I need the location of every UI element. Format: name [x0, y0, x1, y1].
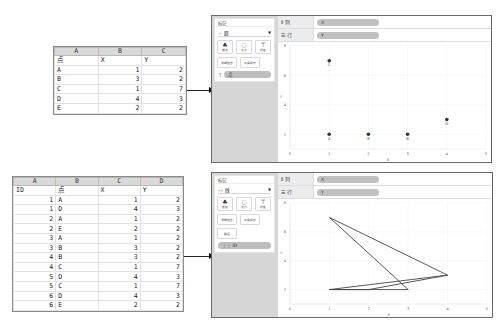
table-cell[interactable]: 2	[98, 224, 140, 234]
table-cell[interactable]: A	[56, 214, 98, 224]
table-cell[interactable]: 5	[14, 281, 56, 291]
table-cell[interactable]: D	[56, 291, 98, 301]
columns-shelf[interactable]: ⦀ 列 X	[278, 16, 491, 29]
table-cell[interactable]: 2	[140, 233, 182, 243]
table-cell[interactable]: 1	[14, 195, 56, 205]
table-cell[interactable]: 3	[140, 272, 182, 282]
table-cell[interactable]: 4	[98, 205, 140, 215]
table-cell[interactable]: 2	[98, 301, 140, 311]
table-cell[interactable]: 1	[98, 281, 140, 291]
rows-shelf[interactable]: ☰ 行 Y	[278, 29, 491, 42]
rows-shelf[interactable]: ☰ 行 Y	[278, 186, 492, 199]
table-cell[interactable]: 3	[14, 233, 56, 243]
table-cell[interactable]: 1	[98, 262, 140, 272]
table-cell[interactable]: 3	[14, 243, 56, 253]
line-segment[interactable]	[329, 217, 447, 275]
table-cell[interactable]: 3	[98, 253, 140, 263]
table-cell[interactable]: D	[56, 272, 98, 282]
table-cell[interactable]: C	[56, 281, 98, 291]
table-cell[interactable]: X	[98, 186, 140, 196]
table-cell[interactable]: 7	[140, 262, 182, 272]
table-cell[interactable]: A	[55, 65, 99, 75]
table-cell[interactable]: 7	[142, 84, 186, 94]
table-cell[interactable]: 4	[14, 253, 56, 263]
column-header[interactable]: A	[14, 178, 56, 186]
table-cell[interactable]: 2	[98, 103, 142, 113]
table-cell[interactable]: 7	[140, 281, 182, 291]
table-cell[interactable]: 3	[98, 75, 142, 85]
label-button[interactable]: ⊤标签	[255, 40, 271, 54]
table-cell[interactable]: E	[55, 103, 99, 113]
column-header[interactable]: B	[56, 178, 98, 186]
chart-view[interactable]: 0123452468XYABCDE	[278, 42, 491, 162]
mark-type-dropdown[interactable]: ⁘圆 ▼	[218, 29, 271, 37]
table-cell[interactable]: X	[98, 56, 142, 66]
marks-field-pill[interactable]: ⋮⋮ ID	[218, 242, 271, 249]
table-cell[interactable]: ID	[14, 186, 56, 196]
table-cell[interactable]: 4	[14, 262, 56, 272]
columns-shelf[interactable]: ⦀ 列 X	[278, 173, 492, 186]
table-cell[interactable]: 1	[98, 65, 142, 75]
table-cell[interactable]: C	[56, 262, 98, 272]
table-cell[interactable]: 1	[98, 214, 140, 224]
chart-view[interactable]: 0123452468XY	[278, 199, 492, 317]
table-cell[interactable]: 3	[140, 205, 182, 215]
table-cell[interactable]: 2	[140, 301, 182, 311]
table-cell[interactable]: B	[55, 75, 99, 85]
table-cell[interactable]: 点	[55, 56, 99, 66]
label-button[interactable]: ⊤标签	[255, 197, 271, 211]
table-cell[interactable]: Y	[142, 56, 186, 66]
rows-pill[interactable]: Y	[317, 32, 379, 39]
detail-button[interactable]: 详细信息	[217, 214, 237, 225]
column-header[interactable]: C	[98, 178, 140, 186]
table-cell[interactable]: 2	[14, 214, 56, 224]
table-cell[interactable]: 点	[56, 186, 98, 196]
table-cell[interactable]: C	[55, 84, 99, 94]
table-cell[interactable]: 2	[140, 214, 182, 224]
rows-pill[interactable]: Y	[317, 189, 379, 196]
table-cell[interactable]: A	[56, 195, 98, 205]
table-cell[interactable]: A	[56, 233, 98, 243]
path-button[interactable]: 路径	[217, 228, 237, 239]
column-header[interactable]: B	[98, 48, 142, 56]
tooltip-button[interactable]: 工具提示	[240, 214, 260, 225]
table-cell[interactable]: D	[55, 94, 99, 104]
table-cell[interactable]: 2	[142, 65, 186, 75]
table-cell[interactable]: 2	[142, 103, 186, 113]
color-button[interactable]: ♣颜色	[217, 40, 233, 54]
size-button[interactable]: ◌大小	[236, 197, 252, 211]
table-cell[interactable]: 5	[14, 272, 56, 282]
table-cell[interactable]: D	[56, 205, 98, 215]
table-cell[interactable]: 2	[140, 243, 182, 253]
table-cell[interactable]: E	[56, 224, 98, 234]
color-button[interactable]: ♣颜色	[217, 197, 233, 211]
column-header[interactable]: D	[140, 178, 182, 186]
table-cell[interactable]: 1	[14, 205, 56, 215]
table-cell[interactable]: 2	[140, 195, 182, 205]
table-cell[interactable]: 3	[142, 94, 186, 104]
table-cell[interactable]: 2	[140, 224, 182, 234]
table-cell[interactable]: B	[56, 243, 98, 253]
table-cell[interactable]: 6	[14, 301, 56, 311]
marks-field-pill[interactable]: 点	[224, 71, 271, 78]
mark-type-dropdown[interactable]: 〰线 ▼	[218, 186, 271, 194]
table-cell[interactable]: Y	[140, 186, 182, 196]
table-cell[interactable]: 1	[98, 84, 142, 94]
table-cell[interactable]: 6	[14, 291, 56, 301]
table-cell[interactable]: 2	[140, 253, 182, 263]
column-header[interactable]: C	[142, 48, 186, 56]
table-cell[interactable]: 2	[14, 224, 56, 234]
columns-pill[interactable]: X	[317, 176, 379, 183]
line-segment[interactable]	[329, 275, 447, 289]
table-cell[interactable]: 4	[98, 94, 142, 104]
table-cell[interactable]: B	[56, 253, 98, 263]
table-cell[interactable]: 1	[98, 233, 140, 243]
table-cell[interactable]: 3	[140, 291, 182, 301]
tooltip-button[interactable]: 工具提示	[240, 57, 260, 68]
column-header[interactable]: A	[55, 48, 99, 56]
table-cell[interactable]: 2	[142, 75, 186, 85]
table-cell[interactable]: 3	[98, 243, 140, 253]
table-cell[interactable]: 4	[98, 291, 140, 301]
size-button[interactable]: ◌大小	[236, 40, 252, 54]
table-cell[interactable]: 4	[98, 272, 140, 282]
